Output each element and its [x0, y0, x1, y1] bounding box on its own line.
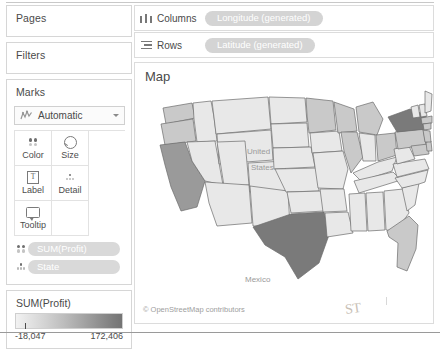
- marks-property-grid: Color Size T Label: [14, 130, 125, 236]
- marks-card: Marks Automatic Color: [6, 79, 132, 285]
- state-missouri: [313, 151, 348, 189]
- detail-button-label: Detail: [58, 186, 81, 195]
- view-pane[interactable]: Map: [134, 62, 434, 324]
- mark-type-icon: [20, 110, 33, 121]
- map-canvas[interactable]: United States Mexico: [135, 85, 433, 323]
- detail-icon: [66, 171, 75, 184]
- tooltip-icon: [26, 206, 40, 219]
- state-nebraska: [273, 147, 315, 169]
- chevron-down-icon[interactable]: [113, 114, 119, 117]
- color-legend-title: SUM(Profit): [7, 291, 131, 314]
- label-button-label: Label: [22, 186, 44, 195]
- size-button[interactable]: Size: [52, 131, 89, 166]
- state-michigan: [356, 102, 383, 135]
- tooltip-button-label: Tooltip: [20, 221, 46, 230]
- marks-pill-row-color[interactable]: SUM(Profit): [14, 242, 125, 256]
- marks-pill-sum-profit[interactable]: SUM(Profit): [28, 242, 120, 256]
- columns-shelf[interactable]: Columns Longitude (generated): [134, 5, 434, 31]
- state-ohio: [376, 133, 397, 161]
- label-button[interactable]: T Label: [15, 166, 52, 201]
- state-mississippi: [349, 193, 367, 231]
- state-south-dakota: [271, 123, 309, 148]
- columns-shelf-label: Columns: [157, 13, 205, 24]
- tooltip-button[interactable]: Tooltip: [15, 201, 52, 236]
- map-attribution: © OpenStreetMap contributors: [143, 305, 245, 314]
- state-connecticut: [423, 123, 431, 130]
- marks-grid-empty-cell: [52, 201, 89, 236]
- columns-icon: [140, 13, 152, 23]
- handwritten-annotation: ST: [344, 300, 362, 318]
- state-delaware: [426, 141, 432, 151]
- columns-pill-longitude[interactable]: Longitude (generated): [205, 11, 323, 26]
- detail-button[interactable]: Detail: [52, 166, 89, 201]
- color-icon: [14, 245, 28, 253]
- color-button[interactable]: Color: [15, 131, 52, 166]
- color-legend-card: SUM(Profit) -18,047 172,406: [6, 290, 132, 349]
- left-sidebar: Pages Filters Marks Automatic: [6, 5, 132, 327]
- label-icon: T: [27, 171, 39, 184]
- state-wisconsin: [334, 102, 357, 133]
- mark-type-dropdown[interactable]: Automatic: [14, 106, 125, 125]
- detail-icon: [14, 263, 28, 269]
- state-arizona: [205, 182, 252, 226]
- size-icon: [64, 136, 77, 149]
- pages-card[interactable]: Pages: [6, 5, 132, 37]
- marks-pill-list: SUM(Profit) State: [14, 242, 125, 274]
- state-minnesota: [306, 98, 336, 133]
- top-divider: [6, 2, 434, 3]
- state-alabama: [366, 192, 385, 231]
- rows-icon: [140, 41, 152, 50]
- bottom-divider: [0, 332, 440, 333]
- marks-pill-state[interactable]: State: [28, 260, 120, 274]
- view-tick-mark: [386, 297, 387, 305]
- rows-shelf[interactable]: Rows Latitude (generated): [134, 32, 434, 58]
- state-montana: [212, 97, 271, 134]
- map-label-country-line2: States: [251, 163, 274, 172]
- color-legend-ramp[interactable]: [15, 313, 123, 329]
- us-choropleth-map[interactable]: [135, 85, 433, 323]
- marks-card-title: Marks: [7, 80, 131, 105]
- state-oregon: [161, 119, 196, 145]
- state-arkansas: [320, 189, 347, 212]
- state-vermont: [411, 105, 420, 118]
- worksheet-title: Map: [135, 63, 433, 83]
- state-oklahoma: [287, 191, 324, 213]
- pages-card-title: Pages: [7, 6, 131, 31]
- filters-card[interactable]: Filters: [6, 42, 132, 74]
- marks-pill-row-detail[interactable]: State: [14, 260, 125, 274]
- state-louisiana: [325, 212, 353, 237]
- mark-type-label: Automatic: [38, 110, 82, 121]
- map-label-country-line1: United: [247, 147, 270, 156]
- state-maine: [425, 91, 432, 113]
- rows-shelf-label: Rows: [157, 40, 205, 51]
- color-button-label: Color: [22, 151, 44, 160]
- state-north-dakota: [269, 97, 307, 124]
- state-iowa: [310, 131, 342, 153]
- filters-card-title: Filters: [7, 43, 131, 68]
- color-icon: [29, 136, 38, 149]
- map-label-mexico: Mexico: [245, 275, 270, 284]
- color-legend-tick: [25, 323, 26, 329]
- rows-pill-latitude[interactable]: Latitude (generated): [205, 38, 315, 53]
- size-button-label: Size: [61, 151, 79, 160]
